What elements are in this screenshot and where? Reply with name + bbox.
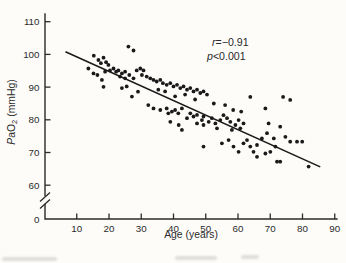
scatter-point: [195, 88, 199, 92]
scatter-point: [300, 140, 304, 144]
scatter-points: [87, 45, 311, 169]
x-axis-label: Age (years): [164, 229, 218, 240]
scatter-point: [192, 115, 196, 119]
scatter-point: [265, 131, 269, 135]
x-tick-label: 10: [71, 223, 82, 234]
scatter-point: [102, 56, 106, 60]
scatter-point: [92, 72, 96, 76]
scatter-point: [237, 150, 241, 154]
scatter-point: [185, 116, 189, 120]
scatter-point: [214, 122, 218, 126]
scatter-point: [193, 98, 197, 102]
y-tick-label: 80: [29, 114, 40, 125]
scatter-point: [288, 140, 292, 144]
scatter-point: [168, 120, 172, 124]
y-tick-label: 100: [23, 49, 40, 60]
scatter-point: [195, 122, 199, 126]
scatter-point: [178, 86, 182, 90]
scatter-point: [161, 81, 165, 85]
scatter-point: [175, 83, 179, 87]
scatter-point: [99, 61, 103, 65]
regression-line-group: [65, 52, 320, 167]
scatter-point: [123, 70, 127, 74]
y-axis-label: PaO2 (mmHg): [6, 79, 19, 144]
scatter-point: [102, 85, 106, 89]
scatter-point: [112, 67, 116, 71]
scatter-point: [207, 120, 211, 124]
scatter-point: [132, 76, 136, 80]
scatter-point: [176, 111, 180, 115]
scatter-point: [272, 137, 276, 141]
scatter-point: [100, 78, 104, 82]
x-tick-label: 90: [329, 223, 340, 234]
scatter-point: [255, 155, 259, 159]
scatter-point: [173, 108, 177, 112]
scatter-point: [307, 165, 311, 169]
scatter-point: [278, 125, 282, 129]
y-origin-label: 0: [34, 214, 40, 225]
scatter-point: [255, 143, 259, 147]
scatter-point: [237, 118, 241, 122]
scatter-point: [145, 75, 149, 79]
scatter-point: [146, 103, 150, 107]
cropped-caption-fragment: [175, 256, 217, 260]
scatter-point: [295, 140, 299, 144]
scatter-point: [284, 135, 288, 139]
scatter-point: [202, 145, 206, 149]
scatter-point: [248, 95, 252, 99]
y-tick-label: 60: [29, 180, 40, 191]
scatter-point: [96, 73, 100, 77]
scatter-point: [248, 145, 252, 149]
scatter-point: [120, 72, 124, 76]
scatter-point: [215, 126, 219, 130]
scatter-point: [278, 160, 282, 164]
scatter-point: [177, 123, 181, 127]
scatter-point: [156, 88, 160, 92]
cropped-caption-fragment: [241, 255, 259, 259]
scatter-point: [92, 54, 96, 58]
axes: 110100908070600102030405060708090: [23, 14, 341, 234]
axis-lines: [45, 14, 337, 219]
scatter-point: [132, 49, 136, 53]
pvalue-annotation: p<0.001: [206, 50, 246, 62]
scatter-point: [158, 108, 162, 112]
stats-annotation: r=−0.91p<0.001: [206, 36, 249, 62]
scatter-point: [87, 67, 91, 71]
correlation-annotation: r=−0.91: [212, 36, 249, 48]
scatter-point: [202, 123, 206, 127]
scatter-point: [183, 93, 187, 97]
scatter-point: [252, 150, 256, 154]
x-tick-label: 20: [104, 223, 115, 234]
scatter-point: [180, 107, 184, 111]
scatter-point: [165, 83, 169, 87]
scatter-point: [202, 90, 206, 94]
scatter-point: [130, 95, 134, 99]
scatter-point: [188, 86, 192, 90]
figure-scatter-plot: 110100908070600102030405060708090 r=−0.9…: [0, 0, 346, 263]
pao2-vs-age-scatter-chart: 110100908070600102030405060708090 r=−0.9…: [0, 0, 346, 263]
scatter-point: [288, 98, 292, 102]
scatter-point: [223, 103, 227, 107]
scatter-point: [227, 138, 231, 142]
scatter-point: [222, 113, 226, 117]
scatter-point: [234, 123, 238, 127]
scatter-point: [135, 69, 139, 73]
x-tick-label: 60: [233, 223, 244, 234]
scatter-point: [212, 102, 216, 106]
y-tick-label: 110: [24, 16, 40, 27]
scatter-point: [220, 141, 224, 145]
scatter-point: [158, 78, 162, 82]
scatter-point: [225, 116, 229, 120]
x-tick-label: 70: [265, 223, 276, 234]
scatter-point: [267, 122, 271, 126]
scatter-point: [166, 111, 170, 115]
scatter-point: [180, 128, 184, 132]
scatter-point: [127, 73, 131, 77]
scatter-point: [125, 85, 129, 89]
scatter-point: [107, 63, 111, 67]
scatter-point: [230, 128, 234, 132]
scatter-point: [120, 86, 124, 90]
x-tick-label: 30: [136, 223, 147, 234]
y-tick-label: 90: [29, 82, 40, 93]
scatter-point: [264, 152, 268, 156]
